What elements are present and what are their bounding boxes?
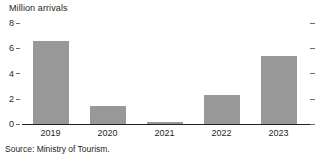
chart-title: Million arrivals <box>9 3 68 13</box>
y-tick-mark-right-2 <box>310 99 315 100</box>
bar-slot-2020 <box>79 23 136 124</box>
y-axis-labels: 8 6 4 2 0 <box>0 0 14 159</box>
bar-2023[interactable] <box>261 56 297 124</box>
x-tick-label-2023: 2023 <box>250 128 307 138</box>
y-tick-mark-right-6 <box>310 48 315 49</box>
y-tick-mark-left-8 <box>16 23 20 24</box>
y-tick-mark-right-8 <box>310 23 315 24</box>
bar-2020[interactable] <box>90 106 126 124</box>
bar-slot-2021 <box>136 23 193 124</box>
y-tick-label-4: 4 <box>9 69 14 78</box>
chart-figure: Million arrivals 8 6 4 2 0 2019 2020 2 <box>0 0 319 159</box>
plot-area <box>22 23 307 124</box>
y-tick-mark-left-0 <box>16 124 20 125</box>
x-tick-label-2020: 2020 <box>79 128 136 138</box>
bar-slot-2019 <box>22 23 79 124</box>
source-note: Source: Ministry of Tourism. <box>5 144 110 154</box>
x-tick-label-2021: 2021 <box>136 128 193 138</box>
bar-2019[interactable] <box>33 41 69 124</box>
y-tick-mark-left-2 <box>16 99 20 100</box>
y-tick-label-8: 8 <box>9 19 14 28</box>
x-tick-label-2022: 2022 <box>193 128 250 138</box>
y-tick-mark-left-6 <box>16 48 20 49</box>
y-tick-mark-right-4 <box>310 73 315 74</box>
bar-slot-2023 <box>250 23 307 124</box>
x-tick-label-2019: 2019 <box>22 128 79 138</box>
bar-slot-2022 <box>193 23 250 124</box>
y-tick-mark-left-4 <box>16 73 20 74</box>
bar-2022[interactable] <box>204 95 240 124</box>
y-tick-label-0: 0 <box>9 120 14 129</box>
y-tick-mark-right-0 <box>310 124 315 125</box>
y-tick-label-2: 2 <box>9 94 14 103</box>
y-tick-label-6: 6 <box>9 44 14 53</box>
x-axis-line <box>22 124 310 125</box>
